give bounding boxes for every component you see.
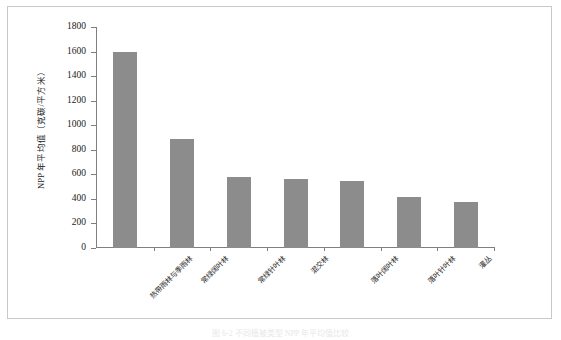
y-tick-label: 1400 <box>42 71 86 81</box>
y-tick-label: 0 <box>42 243 86 253</box>
y-tick-label: 1600 <box>42 47 86 57</box>
y-tick-mark <box>91 248 96 249</box>
x-tick-mark <box>494 247 495 251</box>
x-category-label: 落叶阔叶林 <box>369 253 401 285</box>
x-tick-mark <box>210 247 211 251</box>
y-tick-label: 1200 <box>42 96 86 106</box>
x-tick-mark <box>154 247 155 251</box>
y-tick-label: 800 <box>42 145 86 155</box>
bars-layer <box>97 27 494 248</box>
bar[interactable] <box>170 139 194 248</box>
x-category-label: 热带雨林与季雨林 <box>148 253 195 300</box>
y-tick-label: 200 <box>42 218 86 228</box>
x-category-label: 灌丛 <box>476 253 493 270</box>
x-tick-mark <box>324 247 325 251</box>
chart-plot-area: NPP 年平均值（克碳/平方米） 18001600140012001000800… <box>8 7 551 318</box>
bar[interactable] <box>454 202 478 248</box>
y-tick-label: 600 <box>42 169 86 179</box>
bar[interactable] <box>397 197 421 248</box>
x-tick-mark <box>437 247 438 251</box>
figure-caption: 图 6-2 不同植被类型 NPP 年平均值比较 <box>0 327 561 338</box>
x-category-label: 落叶针叶林 <box>425 253 457 285</box>
y-tick-label: 400 <box>42 194 86 204</box>
x-tick-mark <box>267 247 268 251</box>
y-tick-label: 1800 <box>42 22 86 32</box>
y-tick-label: 1000 <box>42 120 86 130</box>
figure-frame: NPP 年平均值（克碳/平方米） 18001600140012001000800… <box>7 6 552 319</box>
x-tick-mark <box>381 247 382 251</box>
bar[interactable] <box>340 181 364 248</box>
bar[interactable] <box>113 52 137 248</box>
x-category-label: 混交林 <box>308 253 330 275</box>
x-category-label: 常绿阔叶林 <box>198 253 230 285</box>
bar[interactable] <box>284 179 308 248</box>
x-category-label: 常绿针叶林 <box>255 253 287 285</box>
bar[interactable] <box>227 177 251 248</box>
